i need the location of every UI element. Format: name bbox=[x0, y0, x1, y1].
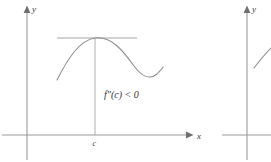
calculus-concavity-diagram: x y c f″(c) < 0 bbox=[0, 0, 271, 162]
tick-label-c: c bbox=[93, 139, 97, 148]
y-axis-arrow-icon bbox=[24, 6, 31, 14]
x-axis-label: x bbox=[196, 131, 201, 141]
function-curve bbox=[57, 38, 163, 80]
figure-stage: x y c f″(c) < 0 bbox=[0, 0, 271, 162]
x-axis-arrow-icon bbox=[186, 132, 194, 139]
y-axis-label: y bbox=[31, 4, 36, 14]
figure-right: y bbox=[222, 4, 271, 160]
function-curve-right bbox=[254, 48, 271, 68]
y-axis-arrow-icon-right bbox=[244, 6, 251, 14]
y-axis-label-right: y bbox=[251, 4, 256, 14]
second-derivative-annotation: f″(c) < 0 bbox=[104, 89, 139, 101]
figure-left: x y c f″(c) < 0 bbox=[2, 4, 201, 160]
